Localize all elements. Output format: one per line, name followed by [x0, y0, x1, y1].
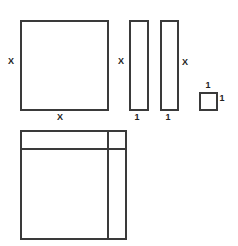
unit-square-tile	[199, 92, 218, 111]
composite-square	[20, 130, 127, 240]
unit-square-right-label: 1	[219, 93, 224, 103]
x-rod-2-right-label: X	[182, 57, 188, 67]
composite-vertical-divider	[107, 130, 109, 240]
x-squared-left-label: X	[8, 56, 14, 66]
x-rod-tile-1	[129, 20, 149, 111]
x-rod-tile-2	[160, 20, 179, 111]
x-rod-1-bottom-label: 1	[134, 112, 139, 122]
unit-square-top-label: 1	[205, 80, 210, 90]
x-squared-tile	[20, 20, 109, 111]
composite-horizontal-divider	[20, 148, 127, 150]
x-rod-1-left-label: X	[118, 56, 124, 66]
x-squared-bottom-label: X	[57, 112, 63, 122]
x-rod-2-bottom-label: 1	[165, 112, 170, 122]
